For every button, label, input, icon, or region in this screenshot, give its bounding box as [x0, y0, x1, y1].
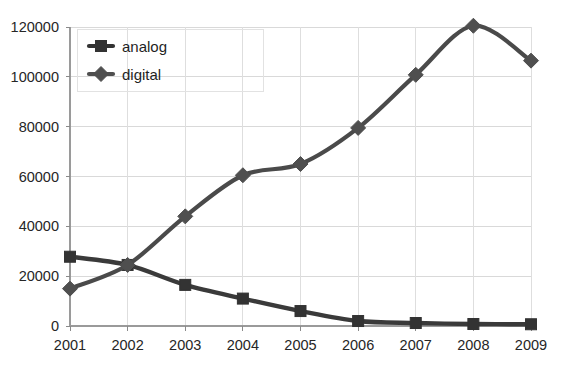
legend-item-digital[interactable]: digital	[89, 66, 161, 83]
x-tick-label-2007: 2007	[400, 337, 432, 353]
x-axis-tick-labels: 200120022003200420052006200720082009	[54, 337, 547, 353]
data-point-analog-2009	[526, 319, 537, 330]
data-point-analog-2003	[180, 279, 191, 290]
y-tick-label-0: 0	[51, 318, 59, 334]
y-tick-label-20000: 20000	[19, 268, 59, 284]
data-point-analog-2006	[353, 316, 364, 327]
x-tick-label-2001: 2001	[54, 337, 86, 353]
x-tick-label-2006: 2006	[342, 337, 374, 353]
data-point-analog-2008	[468, 319, 479, 330]
y-tick-label-80000: 80000	[19, 119, 59, 135]
chart-canvas: 020000400006000080000100000120000 200120…	[0, 0, 569, 369]
x-tick-label-2008: 2008	[457, 337, 489, 353]
data-point-analog-2001	[65, 251, 76, 262]
x-tick-label-2004: 2004	[227, 337, 259, 353]
y-tick-label-120000: 120000	[11, 19, 59, 35]
x-tick-label-2002: 2002	[111, 337, 143, 353]
y-tick-label-40000: 40000	[19, 218, 59, 234]
x-tick-label-2003: 2003	[169, 337, 201, 353]
data-point-analog-2005	[295, 306, 306, 317]
y-tick-label-100000: 100000	[11, 69, 59, 85]
x-tick-label-2009: 2009	[515, 337, 547, 353]
data-point-analog-2004	[237, 293, 248, 304]
data-point-analog-2007	[410, 318, 421, 329]
legend-label-analog: analog	[122, 38, 167, 55]
line-chart: 020000400006000080000100000120000 200120…	[0, 0, 569, 369]
legend-label-digital: digital	[122, 66, 161, 83]
chart-background	[0, 0, 569, 369]
y-tick-label-60000: 60000	[19, 169, 59, 185]
x-tick-label-2005: 2005	[284, 337, 316, 353]
legend-marker-square-icon	[96, 41, 107, 52]
